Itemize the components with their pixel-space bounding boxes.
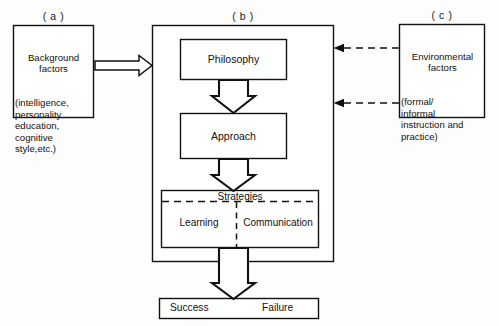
panel-label-a: ( a ) <box>14 10 94 22</box>
outcome-failure-label: Failure <box>262 302 293 313</box>
panel-label-c: ( c ) <box>400 9 485 21</box>
background-factors-text: Background factors (intelligence, person… <box>15 29 92 177</box>
strategy-learning-label: Learning <box>162 217 236 228</box>
arrowhead-env-to-approach <box>334 99 345 107</box>
background-factors-heading: Background factors <box>15 52 92 75</box>
approach-label: Approach <box>181 130 287 142</box>
outcome-success-label: Success <box>170 302 209 313</box>
arrowhead-env-to-philosophy <box>334 44 345 52</box>
strategy-communication-label: Communication <box>238 217 318 228</box>
background-factors-body: (intelligence, personality education, co… <box>15 97 92 154</box>
environmental-factors-body: (formal/ informal instruction and practi… <box>401 96 484 142</box>
arrow-background-to-core <box>95 56 152 76</box>
strategies-title: Strategies <box>162 191 319 202</box>
environmental-factors-text: Environmental factors (formal/ informal … <box>401 28 484 165</box>
environmental-factors-heading: Environmental factors <box>401 51 484 74</box>
panel-label-b: ( b ) <box>153 10 334 22</box>
arrow-core-to-outcome <box>212 248 255 299</box>
figure-canvas: ( a ) ( b ) ( c ) Background factors (in… <box>0 0 499 326</box>
philosophy-label: Philosophy <box>181 53 287 65</box>
